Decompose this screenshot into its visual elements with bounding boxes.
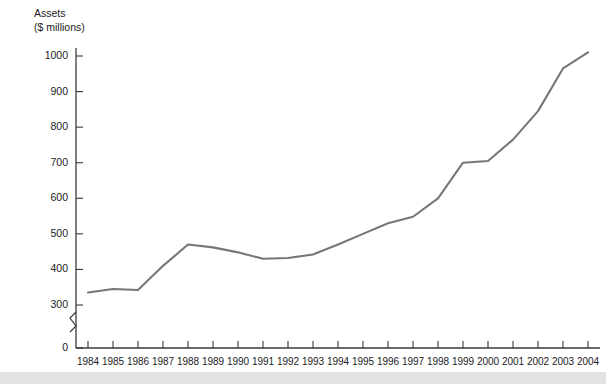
y-tick-label: 300 bbox=[28, 299, 68, 310]
axis-break-symbol bbox=[70, 312, 76, 332]
y-tick-label: 0 bbox=[28, 342, 68, 353]
y-tick-label: 600 bbox=[28, 192, 68, 203]
x-axis-ticks bbox=[88, 341, 588, 348]
y-tick-label: 700 bbox=[28, 157, 68, 168]
footer-band bbox=[0, 372, 606, 384]
axis-lines bbox=[76, 48, 600, 348]
y-axis-ticks bbox=[76, 56, 83, 348]
y-tick-label: 900 bbox=[28, 86, 68, 97]
plot-area bbox=[0, 0, 606, 384]
assets-line-chart: Assets ($ millions) 03004005006007008009… bbox=[0, 0, 606, 384]
y-tick-label: 400 bbox=[28, 263, 68, 274]
y-tick-label: 1000 bbox=[28, 50, 68, 61]
y-tick-label: 500 bbox=[28, 228, 68, 239]
x-tick-label: 2004 bbox=[568, 356, 606, 367]
assets-data-line bbox=[88, 52, 588, 292]
y-tick-label: 800 bbox=[28, 121, 68, 132]
